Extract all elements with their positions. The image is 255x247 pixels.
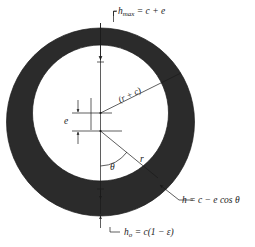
label-h-max: hmax = c + e — [118, 7, 165, 18]
label-h-max-equation: = c + e — [137, 6, 165, 16]
bearing-clearance-diagram — [0, 0, 255, 247]
label-eccentricity: e — [64, 117, 68, 127]
label-h-min-equation: = c(1 − ε) — [135, 227, 174, 237]
label-theta: θ — [110, 163, 115, 173]
label-radius: r — [140, 155, 144, 165]
bearing-annulus — [0, 0, 255, 247]
label-h-theta: h = c − e cos θ — [182, 196, 240, 206]
label-h-min: ho = c(1 − ε) — [124, 228, 174, 239]
